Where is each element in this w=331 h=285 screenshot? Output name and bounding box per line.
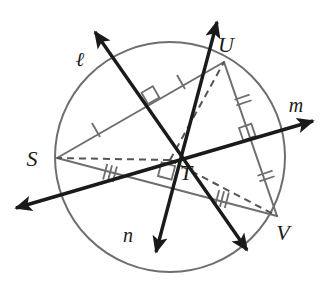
point-label-T: T: [180, 160, 194, 185]
circle-outline: [55, 42, 285, 272]
line-n: [156, 22, 217, 252]
radius-TS: [57, 158, 170, 160]
point-label-V: V: [276, 220, 292, 245]
point-label-U: U: [218, 32, 236, 57]
line-label-n: n: [123, 224, 133, 246]
geometry-figure: S U V T ℓ m n: [0, 0, 331, 285]
point-label-S: S: [27, 146, 38, 171]
line-label-l: ℓ: [76, 48, 85, 70]
tick-UV-near-V: [257, 171, 274, 182]
geometry-diagram-svg: S U V T ℓ m n: [0, 0, 331, 285]
line-label-m: m: [289, 94, 303, 116]
chord-SU: [57, 62, 224, 158]
chords-group: [57, 62, 277, 216]
